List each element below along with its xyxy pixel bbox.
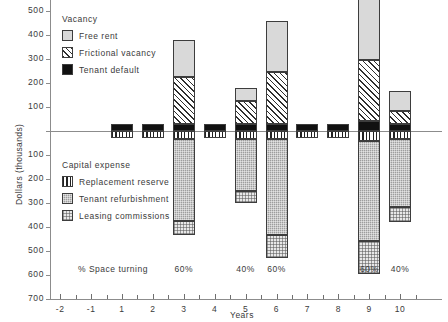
segment-replacement_reserve-year-3 [173,131,195,139]
segment-tenant_refurbishment-year-3 [173,139,195,221]
legend-label: Frictional vacancy [79,48,156,58]
legend-item-free-rent: Free rent [62,28,156,43]
segment-replacement_reserve-year-6 [266,131,288,139]
segment-leasing_commissions-year-3 [173,221,195,235]
segment-leasing_commissions-year-5 [235,191,257,203]
x-tick-mark [60,294,61,299]
y-tick-mark [46,11,51,12]
segment-tenant_default-year-10 [389,124,411,131]
x-tick-mark-minor [354,295,355,299]
bar-year-4 [204,0,226,322]
x-tick-label: 8 [323,304,353,314]
x-tick-mark [153,294,154,299]
segment-frictional_vacancy-year-10 [389,111,411,124]
x-tick-label: -2 [45,304,75,314]
legend-item-frictional-vacancy: Frictional vacancy [62,45,156,60]
legend-item-replacement-reserve: Replacement reserve [62,174,170,189]
legend-vacancy: Vacancy Free rentFrictional vacancyTenan… [62,14,156,79]
x-tick-label: 4 [200,304,230,314]
legend-label: Tenant default [79,65,139,75]
x-tick-label: 3 [169,304,199,314]
segment-tenant_refurbishment-year-6 [266,139,288,235]
space-turning-year-3: 60% [168,264,200,274]
x-tick-mark [215,294,216,299]
segment-free_rent-year-9 [358,0,380,60]
segment-replacement_reserve-year-8 [327,131,349,138]
y-tick-mark [46,251,51,252]
segment-tenant_default-year-2 [142,124,164,131]
segment-tenant_default-year-4 [204,124,226,131]
x-tick-mark [307,294,308,299]
segment-tenant_refurbishment-year-5 [235,139,257,191]
legend-swatch-light-dot-grid [62,210,73,221]
x-tick-mark [338,294,339,299]
space-turning-year-10: 40% [384,264,416,274]
space-turning-year-9: 60% [353,264,385,274]
legend-swatch-solid-light-gray [62,30,73,41]
segment-tenant_default-year-3 [173,124,195,131]
legend-capital-expense-title: Capital expense [62,160,170,170]
y-tick-mark [46,83,51,84]
x-tick-label: -1 [76,304,106,314]
legend-label: Free rent [79,31,118,41]
legend-swatch-solid-black [62,64,73,75]
x-tick-mark [122,294,123,299]
y-tick-mark [46,227,51,228]
segment-tenant_default-year-1 [111,124,133,131]
y-tick-label: 100 [6,101,44,111]
y-tick-label: 400 [6,221,44,231]
segment-leasing_commissions-year-10 [389,207,411,223]
y-axis-title: Dollars (thousands) [14,124,24,205]
legend-swatch-vertical-stripes [62,176,73,187]
segment-free_rent-year-5 [235,88,257,101]
segment-replacement_reserve-year-9 [358,131,380,141]
segment-free_rent-year-6 [266,21,288,73]
y-tick-label: 700 [6,293,44,303]
segment-replacement_reserve-year-1 [111,131,133,138]
legend-swatch-diagonal-hatch [62,47,73,58]
segment-replacement_reserve-year-7 [296,131,318,138]
x-tick-mark-minor [76,295,77,299]
x-tick-label: 2 [138,304,168,314]
y-tick-mark [46,155,51,156]
segment-frictional_vacancy-year-9 [358,60,380,121]
legend-vacancy-title: Vacancy [62,14,156,24]
y-tick-label: 100 [6,149,44,159]
x-tick-mark-minor [230,295,231,299]
x-tick-mark-minor [385,295,386,299]
x-tick-label: 9 [354,304,384,314]
x-tick-mark-minor [137,295,138,299]
legend-item-tenant-refurbishment: Tenant refurbishment [62,191,170,206]
chart-canvas: Dollars (thousands) 60050040030020010010… [0,0,448,322]
space-turning-year-6: 60% [261,264,293,274]
y-tick-mark [46,59,51,60]
segment-free_rent-year-3 [173,40,195,77]
y-tick-label: 300 [6,53,44,63]
x-tick-label: 6 [262,304,292,314]
segment-tenant_default-year-6 [266,124,288,131]
y-tick-label: 500 [6,245,44,255]
x-tick-label: 1 [107,304,137,314]
legend-swatch-dark-gray-check [62,193,73,204]
y-axis-line [50,0,51,299]
legend-label: Leasing commissions [79,211,170,221]
bar-year-8 [327,0,349,322]
x-tick-mark-minor [261,295,262,299]
y-tick-label: 200 [6,173,44,183]
legend-label: Replacement reserve [79,177,169,187]
y-tick-mark [46,179,51,180]
segment-tenant_default-year-9 [358,121,380,131]
x-tick-mark [277,294,278,299]
x-tick-mark [184,294,185,299]
y-tick-mark [46,203,51,204]
segment-frictional_vacancy-year-6 [266,72,288,124]
space-turning-year-5: 40% [230,264,262,274]
legend-capital-expense: Capital expense Replacement reserveTenan… [62,160,170,225]
legend-item-leasing-commissions: Leasing commissions [62,208,170,223]
x-tick-label: 10 [385,304,415,314]
y-tick-mark [46,35,51,36]
x-tick-mark-minor [323,295,324,299]
y-tick-label: 600 [6,269,44,279]
segment-free_rent-year-10 [389,91,411,110]
y-tick-label: 400 [6,29,44,39]
